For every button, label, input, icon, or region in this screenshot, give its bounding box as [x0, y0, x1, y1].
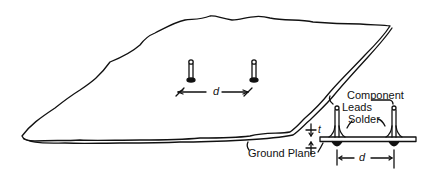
- component-label-line1: Component: [347, 90, 404, 101]
- diagram-canvas: d Component Leads Solder Ground Plane t …: [0, 0, 426, 182]
- lead-pin-left: [187, 60, 195, 82]
- solder-label: Solder: [348, 114, 380, 125]
- ground-plane-edge: [24, 28, 392, 143]
- spacing-label-plane: d: [213, 86, 219, 97]
- ground-plane-label: Ground Plane: [248, 148, 316, 159]
- spacing-label-detail: d: [359, 152, 365, 163]
- thickness-label: t: [318, 124, 321, 135]
- leads-label-line2: Leads: [342, 102, 372, 113]
- lead-pin-right: [250, 60, 258, 82]
